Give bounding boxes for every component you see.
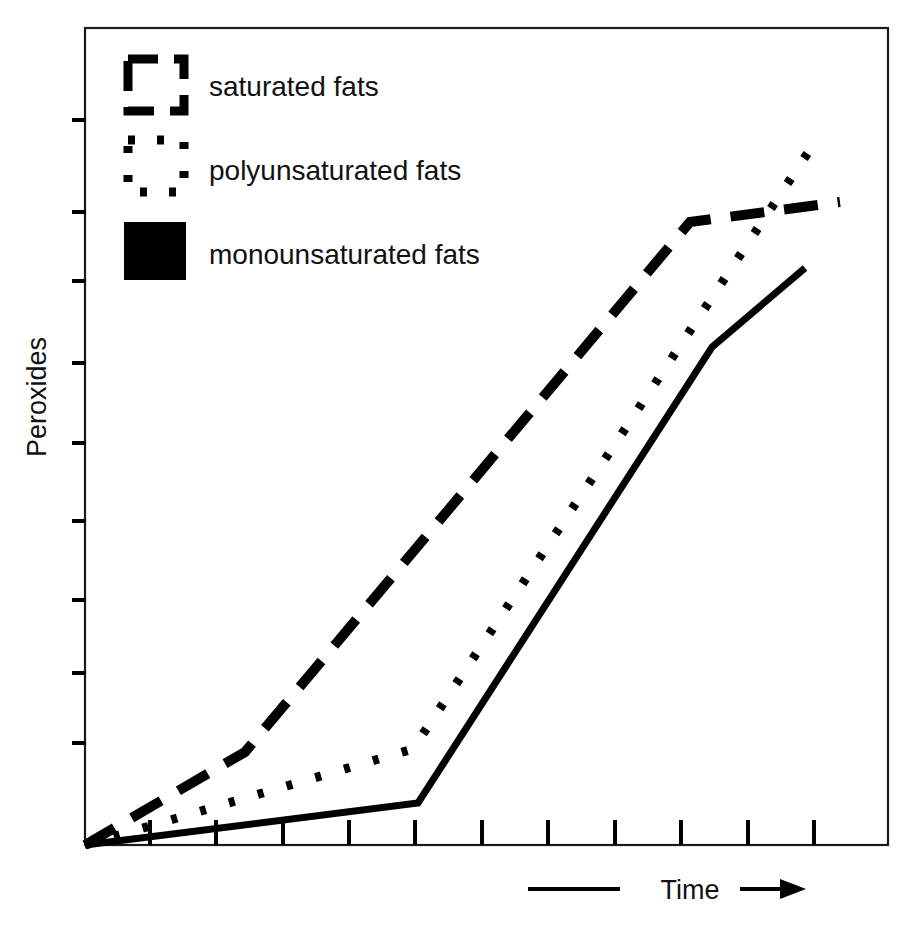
x-axis-title: Time — [661, 875, 720, 905]
legend-label-monounsaturated: monounsaturated fats — [209, 239, 480, 270]
chart-background — [0, 0, 910, 929]
legend-swatch-monounsaturated-filled-square — [124, 222, 186, 280]
y-axis-title: Peroxides — [22, 337, 52, 457]
legend-label-saturated: saturated fats — [209, 71, 379, 102]
legend-label-polyunsaturated: polyunsaturated fats — [209, 155, 461, 186]
chart-container: saturated fats polyunsaturated fats mono… — [0, 0, 910, 929]
peroxides-vs-time-line-chart: saturated fats polyunsaturated fats mono… — [0, 0, 910, 929]
